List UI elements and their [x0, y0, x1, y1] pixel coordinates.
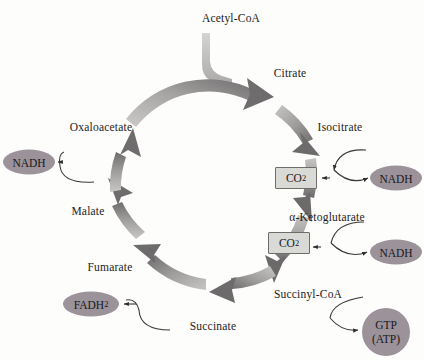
label-fumarate: Fumarate	[87, 262, 132, 274]
ring-segment-to-isocitrate	[275, 105, 320, 156]
product-gtp-atp: GTP (ATP)	[362, 308, 410, 356]
label-oxaloacetate: Oxaloacetate	[70, 122, 132, 134]
ring-segment-to-fumarate	[133, 244, 206, 290]
connector-isocitrate-branch	[322, 150, 368, 181]
byproduct-co2-alpha-ketoglutarate: CO2	[268, 232, 310, 254]
ring-segment-to-citrate	[126, 78, 274, 127]
gtp-label: GTP	[375, 318, 397, 332]
ring-segment-to-succinate	[209, 266, 276, 303]
citric-acid-cycle-figure: Acetyl-CoA Citrate Isocitrate α-Ketoglut…	[0, 0, 424, 360]
label-acetyl-coa: Acetyl-CoA	[202, 13, 260, 25]
label-isocitrate: Isocitrate	[318, 122, 363, 134]
co2-akg-subscript: 2	[295, 239, 299, 248]
byproduct-co2-isocitrate: CO2	[275, 167, 317, 189]
product-nadh-isocitrate: NADH	[370, 166, 422, 191]
atp-label: (ATP)	[372, 332, 400, 346]
label-malate: Malate	[71, 206, 104, 218]
product-fadh2: FADH2	[63, 292, 119, 317]
nadh-isocitrate-label: NADH	[379, 172, 412, 184]
fadh2-subscript: 2	[104, 300, 108, 309]
connector-alpha-ketoglutarate-branch	[313, 222, 367, 255]
label-alpha-ketoglutarate: α-Ketoglutarate	[289, 212, 364, 224]
label-citrate: Citrate	[274, 68, 307, 80]
product-nadh-malate: NADH	[3, 150, 55, 175]
connector-succinyl-coa-branch	[330, 297, 363, 330]
connector-malate-branch	[58, 152, 94, 182]
nadh-malate-label: NADH	[12, 156, 45, 168]
label-succinyl-coa: Succinyl-CoA	[274, 289, 342, 301]
connector-succinate-branch	[124, 300, 170, 330]
co2-akg-text: CO	[279, 237, 295, 249]
ring-segment-to-oxaloacetate	[110, 128, 141, 192]
co2-isocitrate-subscript: 2	[302, 174, 306, 183]
fadh2-text: FADH	[74, 298, 104, 310]
nadh-akg-label: NADH	[379, 246, 412, 258]
product-nadh-alpha-ketoglutarate: NADH	[370, 240, 422, 265]
co2-isocitrate-text: CO	[286, 172, 302, 184]
label-succinate: Succinate	[190, 321, 237, 333]
